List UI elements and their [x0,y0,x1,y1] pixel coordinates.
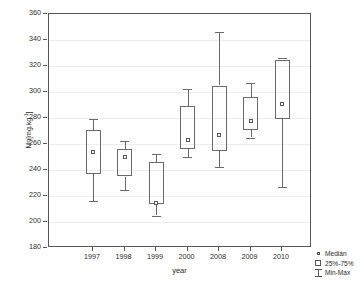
whisker-lower [219,151,220,168]
whisker-cap-max [120,141,129,142]
x-axis-tick-label: 1997 [84,252,100,261]
gridline [49,40,310,41]
median-marker [249,119,253,123]
legend-label: Medián [323,249,347,259]
whisker-cap-max [152,154,161,155]
legend: Medián25%-75%Min-Max [313,249,354,278]
whisker-cap-max [215,32,224,33]
plot-area [48,13,311,247]
x-axis-tick-label: 1999 [147,252,163,261]
y-axis-tick-mark [43,13,47,14]
y-axis-tick-label: 360 [29,9,41,17]
legend-item: 25%-75% [313,259,354,269]
whisker-lower [93,174,94,201]
y-axis-tick-mark [43,195,47,196]
whisker-upper [125,141,126,149]
y-axis-tick-label: 260 [29,139,41,147]
legend-label: 25%-75% [323,259,354,269]
whisker-cap-min [152,216,161,217]
gridline [49,222,310,223]
median-marker [123,155,127,159]
x-axis-tick-label: 2000 [179,252,195,261]
whisker-cap-min [246,138,255,139]
legend-item: Min-Max [313,268,354,278]
y-axis-tick-mark [43,65,47,66]
gridline [49,66,310,67]
whisker-upper [93,119,94,129]
x-axis-tick-label: 2010 [273,252,289,261]
median-marker [91,150,95,154]
x-axis-tick-mark [155,247,156,251]
y-axis-tick-label: 200 [29,217,41,225]
gridline [49,196,310,197]
whisker-upper [219,32,220,85]
whisker-range-icon [313,269,323,277]
whisker-cap-min [183,157,192,158]
median-point-icon [313,252,323,255]
whisker-cap-min [120,190,129,191]
y-axis-tick-mark [43,39,47,40]
x-axis-tick-label: 2009 [242,252,258,261]
x-axis-tick-mark [92,247,93,251]
x-axis-tick-label: 2008 [210,252,226,261]
whisker-cap-min [278,187,287,188]
y-axis-tick-mark [43,221,47,222]
x-axis-tick-mark [187,247,188,251]
whisker-upper [251,83,252,97]
median-marker [186,138,190,142]
x-axis-tick-mark [218,247,219,251]
y-axis-tick-label: 240 [29,165,41,173]
box-iqr [149,162,164,204]
x-axis-title: year [48,266,311,275]
y-axis-tick-label: 280 [29,113,41,121]
y-axis-tick-label: 300 [29,87,41,95]
legend-item: Medián [313,249,354,259]
whisker-lower [188,149,189,157]
whisker-cap-max [183,89,192,90]
whisker-cap-min [89,201,98,202]
y-axis-tick-mark [43,247,47,248]
x-axis-tick-mark [281,247,282,251]
box-iqr [275,60,290,120]
whisker-upper [188,89,189,106]
median-marker [217,133,221,137]
y-axis-tick-label: 180 [29,243,41,251]
x-axis-tick-mark [124,247,125,251]
boxplot-figure: Mn[mg.kg-1] 1802002202402602803003203403… [0,0,363,284]
y-axis-tick-mark [43,117,47,118]
y-axis-tick-mark [43,169,47,170]
y-axis-tick-mark [43,91,47,92]
y-axis-tick-label: 340 [29,35,41,43]
whisker-cap-max [246,83,255,84]
box-iqr [117,149,132,176]
median-marker [154,201,158,205]
box-iqr [243,97,258,130]
legend-label: Min-Max [323,268,350,278]
y-axis-tick-mark [43,143,47,144]
median-marker [280,102,284,106]
gridline [49,92,310,93]
y-axis-tick-label: 320 [29,61,41,69]
box-iqr [180,106,195,149]
box-range-icon [313,260,323,266]
y-axis-tick-label: 220 [29,191,41,199]
whisker-cap-max [89,119,98,120]
whisker-cap-min [215,167,224,168]
box-iqr [212,86,227,151]
whisker-lower [282,119,283,187]
whisker-lower [251,130,252,138]
y-axis: 180200220240260280300320340360 [0,0,48,284]
whisker-upper [156,154,157,162]
x-axis-tick-mark [250,247,251,251]
x-axis-tick-label: 1998 [116,252,132,261]
whisker-lower [156,204,157,216]
whisker-lower [125,177,126,190]
